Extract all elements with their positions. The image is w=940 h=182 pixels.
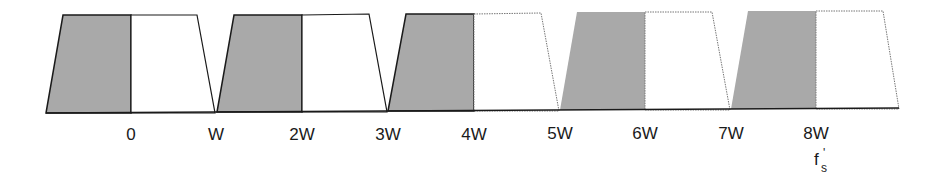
replica-1-clear-band	[131, 15, 215, 113]
tick-label-2w: 2W	[289, 125, 315, 144]
replica-5	[731, 11, 899, 109]
tick-label-7w: 7W	[718, 124, 744, 143]
tick-label-3w: 3W	[375, 125, 401, 144]
replica-1-shaded-band	[46, 15, 131, 113]
tick-label-w: W	[208, 125, 224, 144]
sampling-frequency-label: f ' s	[814, 146, 827, 175]
tick-labels: 0 W 2W 3W 4W 5W 6W 7W 8W	[126, 124, 828, 144]
fs-prime: '	[823, 146, 825, 160]
spectrum-diagram: 0 W 2W 3W 4W 5W 6W 7W 8W f ' s	[0, 0, 940, 182]
replica-3-shaded-band	[388, 14, 474, 111]
tick-label-6w: 6W	[632, 124, 658, 143]
tick-label-8w: 8W	[803, 124, 829, 143]
replica-2-clear-band	[302, 14, 387, 112]
replica-2-shaded-band	[217, 15, 302, 112]
replica-4-shaded-band	[560, 12, 645, 110]
tick-label-0: 0	[126, 125, 135, 144]
tick-label-4w: 4W	[461, 125, 487, 144]
replica-2	[217, 14, 387, 112]
replica-4-clear-band	[645, 12, 730, 110]
replica-5-clear-band	[816, 11, 899, 109]
replica-1	[46, 15, 215, 113]
replica-5-shaded-band	[731, 11, 816, 109]
fs-subscript: s	[821, 161, 827, 175]
replica-4	[560, 12, 730, 110]
replica-3	[388, 13, 559, 111]
tick-label-5w: 5W	[547, 124, 573, 143]
replica-3-clear-band	[474, 13, 559, 111]
fs-main: f	[814, 150, 819, 169]
